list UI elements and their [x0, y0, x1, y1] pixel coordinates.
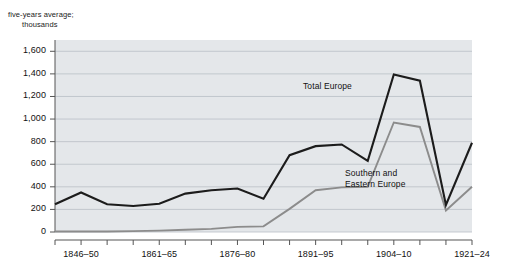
y-tick-label: 200	[10, 203, 46, 213]
y-tick-label: 1,200	[10, 90, 46, 100]
plot-canvas	[0, 0, 505, 272]
x-tick-label: 1891–95	[286, 249, 346, 259]
y-tick-marks	[50, 51, 55, 232]
series-annotation-southern-eastern-europe: Southern andEastern Europe	[345, 168, 405, 189]
y-tick-label: 600	[10, 158, 46, 168]
x-tick-label: 1876–80	[207, 249, 267, 259]
x-tick-marks	[55, 240, 472, 245]
plot-background	[55, 40, 472, 232]
y-tick-label: 0	[10, 226, 46, 236]
y-tick-label: 1,000	[10, 113, 46, 123]
y-tick-label: 1,600	[10, 45, 46, 55]
x-tick-label: 1904–10	[364, 249, 424, 259]
see-label-line1: Southern and	[345, 168, 397, 178]
series-annotation-total-europe: Total Europe	[303, 81, 352, 92]
see-label-line2: Eastern Europe	[345, 179, 405, 189]
immigration-line-chart: five-years average; thousands 0200400600…	[0, 0, 505, 272]
x-tick-label: 1861–65	[129, 249, 189, 259]
x-tick-label: 1846–50	[51, 249, 111, 259]
y-tick-label: 400	[10, 181, 46, 191]
y-tick-label: 800	[10, 136, 46, 146]
x-tick-label: 1921–24	[442, 249, 502, 259]
y-tick-label: 1,400	[10, 68, 46, 78]
